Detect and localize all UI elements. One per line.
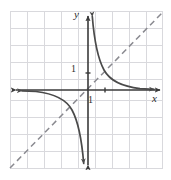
y-axis-label: y xyxy=(74,9,79,20)
coordinate-axes xyxy=(16,16,160,165)
figure-container: y x 1 1 xyxy=(0,0,171,180)
x-axis-label: x xyxy=(152,93,157,104)
y-tick-label-1: 1 xyxy=(71,64,76,74)
x-tick-label-1: 1 xyxy=(88,95,93,105)
graph-svg xyxy=(0,0,171,180)
